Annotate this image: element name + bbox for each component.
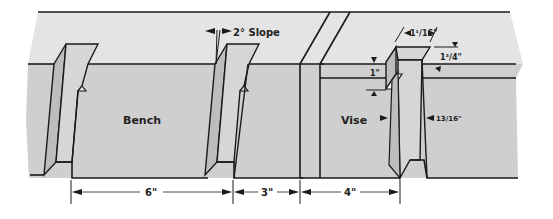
vise-label: Vise <box>341 114 367 127</box>
dog-width-label: 1¹/16" <box>410 29 437 38</box>
slot-gap-label: 13/16" <box>436 115 462 123</box>
slot-depth-label: 1" <box>370 69 380 78</box>
bench-spacing-label: 6" <box>145 187 157 198</box>
bench-dog-diagram: 2° Slope Bench Vise 1¹/16" 1³/4" <box>0 0 553 219</box>
gap-spacing-label: 3" <box>261 187 273 198</box>
bottom-dimensions: 6" 3" 4" <box>71 180 400 204</box>
vise-spacing-label: 4" <box>344 187 356 198</box>
slope-label: 2° Slope <box>233 27 280 38</box>
dog-height-label: 1³/4" <box>440 53 462 62</box>
bench-label: Bench <box>123 114 161 127</box>
